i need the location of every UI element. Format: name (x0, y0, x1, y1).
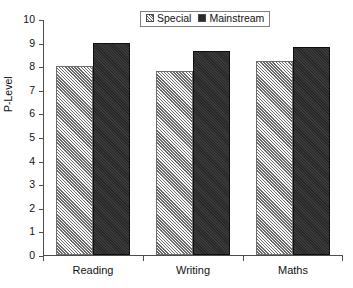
y-axis-title: P-Level (2, 76, 14, 112)
x-category-label-writing: Writing (176, 264, 210, 276)
y-tick: 10 (39, 20, 43, 21)
bar-maths-mainstream (293, 47, 330, 255)
bar-maths-special (256, 61, 293, 255)
bar-reading-mainstream (93, 43, 130, 255)
y-axis-line (43, 20, 44, 256)
y-tick: 2 (39, 209, 43, 210)
y-tick-label: 2 (29, 202, 35, 215)
plot-area: 012345678910 (43, 20, 343, 256)
y-tick: 6 (39, 114, 43, 115)
x-tick (143, 256, 144, 261)
y-tick-label: 0 (29, 249, 35, 262)
y-tick: 1 (39, 232, 43, 233)
y-tick-label: 1 (29, 225, 35, 238)
y-tick: 4 (39, 162, 43, 163)
bar-chart: Special Mainstream P-Level 012345678910 … (0, 0, 353, 288)
x-category-label-maths: Maths (278, 264, 308, 276)
y-tick: 9 (39, 44, 43, 45)
bar-reading-special (56, 66, 93, 255)
y-tick-label: 4 (29, 155, 35, 168)
y-tick-label: 3 (29, 178, 35, 191)
bar-writing-mainstream (193, 51, 230, 255)
y-tick: 3 (39, 185, 43, 186)
y-tick: 7 (39, 91, 43, 92)
y-tick-label: 10 (23, 13, 35, 26)
x-category-label-reading: Reading (73, 264, 114, 276)
x-tick (342, 256, 343, 261)
x-tick (43, 256, 44, 261)
bar-writing-special (156, 71, 193, 255)
y-tick: 5 (39, 138, 43, 139)
y-tick-label: 6 (29, 107, 35, 120)
x-tick (243, 256, 244, 261)
y-tick-label: 9 (29, 37, 35, 50)
y-tick: 8 (39, 67, 43, 68)
y-tick-label: 7 (29, 84, 35, 97)
y-tick-label: 5 (29, 131, 35, 144)
y-tick-label: 8 (29, 60, 35, 73)
x-axis-line (43, 255, 343, 256)
